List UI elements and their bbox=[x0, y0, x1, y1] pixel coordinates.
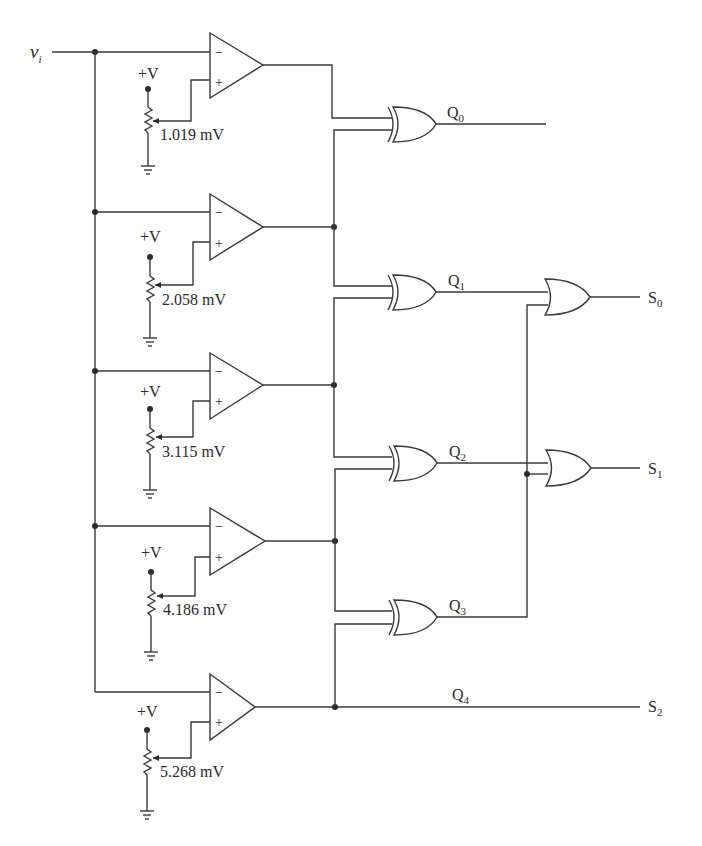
reference-voltage: 1.019 mV bbox=[160, 126, 224, 143]
xor-input-arc bbox=[389, 600, 394, 635]
reference-wire bbox=[156, 401, 210, 437]
xor-gate-1: Q1 bbox=[388, 272, 548, 310]
or-gate-0: S0 bbox=[545, 279, 663, 315]
input-label: vi bbox=[30, 41, 42, 65]
supply-label: +V bbox=[140, 383, 161, 400]
xor-input-arc bbox=[388, 275, 393, 310]
wiper-arrow-icon bbox=[157, 593, 163, 599]
supply-label: +V bbox=[140, 228, 161, 245]
xor-gate-icon bbox=[394, 446, 437, 481]
plus-terminal: + bbox=[215, 75, 223, 90]
supply-label: +V bbox=[137, 703, 158, 720]
minus-terminal: − bbox=[215, 45, 223, 60]
or-gate-icon bbox=[545, 279, 590, 315]
wiper-arrow-icon bbox=[153, 755, 159, 761]
ground-icon bbox=[140, 811, 154, 819]
plus-terminal: + bbox=[215, 715, 223, 730]
comparator-2: − + +V 2.058 mV bbox=[140, 194, 337, 346]
potentiometer-icon bbox=[144, 749, 151, 775]
q3-output-wire bbox=[437, 305, 548, 617]
junction-dot bbox=[92, 523, 98, 529]
reference-wire bbox=[153, 722, 210, 758]
comparator-4: − + +V 4.186 mV bbox=[141, 508, 338, 660]
output-wire bbox=[263, 65, 392, 118]
reference-wire bbox=[157, 557, 210, 596]
s2-label[interactable]: S2 bbox=[648, 698, 662, 718]
minus-terminal: − bbox=[215, 364, 223, 379]
q4-label: Q4 bbox=[452, 686, 470, 706]
rail-c3-to-xor1 bbox=[334, 298, 392, 385]
or-gate-1: S1 bbox=[546, 450, 662, 486]
ground-icon bbox=[141, 166, 155, 174]
junction-dot bbox=[92, 368, 98, 374]
circuit-diagram: vi − + +V 1.019 mV − + +V bbox=[0, 0, 702, 846]
rail-c3-to-xor2 bbox=[334, 385, 392, 457]
q0-label: Q0 bbox=[447, 104, 465, 124]
supply-label: +V bbox=[141, 544, 162, 561]
junction-dot bbox=[524, 471, 530, 477]
reference-voltage: 4.186 mV bbox=[163, 601, 227, 618]
plus-terminal: + bbox=[215, 394, 223, 409]
xor-input-arc bbox=[388, 107, 393, 142]
s1-label[interactable]: S1 bbox=[648, 460, 662, 480]
xor-input-arc bbox=[389, 446, 394, 481]
s0-label[interactable]: S0 bbox=[648, 289, 663, 309]
reference-wire bbox=[153, 80, 210, 121]
reference-voltage: 3.115 mV bbox=[162, 443, 226, 460]
xor-gate-icon bbox=[393, 275, 436, 310]
plus-terminal: + bbox=[215, 550, 223, 565]
reference-voltage: 2.058 mV bbox=[162, 291, 226, 308]
opamp-triangle-icon bbox=[210, 353, 263, 419]
xor-gate-icon bbox=[394, 600, 437, 635]
potentiometer-icon bbox=[147, 276, 154, 302]
q2-label: Q2 bbox=[449, 443, 466, 463]
wiper-arrow-icon bbox=[156, 434, 162, 440]
supply-label: +V bbox=[138, 65, 159, 82]
rail-c4-to-xor2 bbox=[335, 469, 392, 541]
minus-terminal: − bbox=[215, 685, 223, 700]
minus-terminal: − bbox=[215, 205, 223, 220]
rail-c4-to-xor3 bbox=[335, 541, 392, 611]
ground-icon bbox=[143, 338, 157, 346]
ground-icon bbox=[143, 490, 157, 498]
reference-voltage: 5.268 mV bbox=[160, 763, 224, 780]
potentiometer-icon bbox=[148, 590, 155, 616]
plus-terminal: + bbox=[215, 236, 223, 251]
q3-label: Q3 bbox=[449, 597, 467, 617]
potentiometer-icon bbox=[147, 428, 154, 454]
ground-icon bbox=[144, 652, 158, 660]
comparator-3: − + +V 3.115 mV bbox=[140, 353, 337, 498]
rail-c5-to-xor3 bbox=[335, 624, 392, 707]
xor-gate-0: Q0 bbox=[388, 104, 546, 142]
minus-terminal: − bbox=[215, 519, 223, 534]
potentiometer-icon bbox=[145, 107, 152, 133]
comparator-5: − + +V 5.268 mV bbox=[137, 674, 640, 819]
wiper-arrow-icon bbox=[155, 282, 161, 288]
or-gate-icon bbox=[546, 450, 591, 486]
xor-gate-2: Q2 bbox=[389, 443, 548, 481]
rail-c2-to-xor1 bbox=[334, 227, 392, 286]
junction-dot bbox=[92, 209, 98, 215]
comparator-1: − + +V 1.019 mV bbox=[138, 33, 392, 174]
reference-wire bbox=[155, 242, 210, 285]
q1-label: Q1 bbox=[448, 272, 465, 292]
wiper-arrow-icon bbox=[153, 118, 159, 124]
xor-gate-icon bbox=[393, 107, 436, 142]
opamp-triangle-icon bbox=[210, 674, 255, 740]
rail-c2-to-xor0 bbox=[334, 130, 392, 227]
